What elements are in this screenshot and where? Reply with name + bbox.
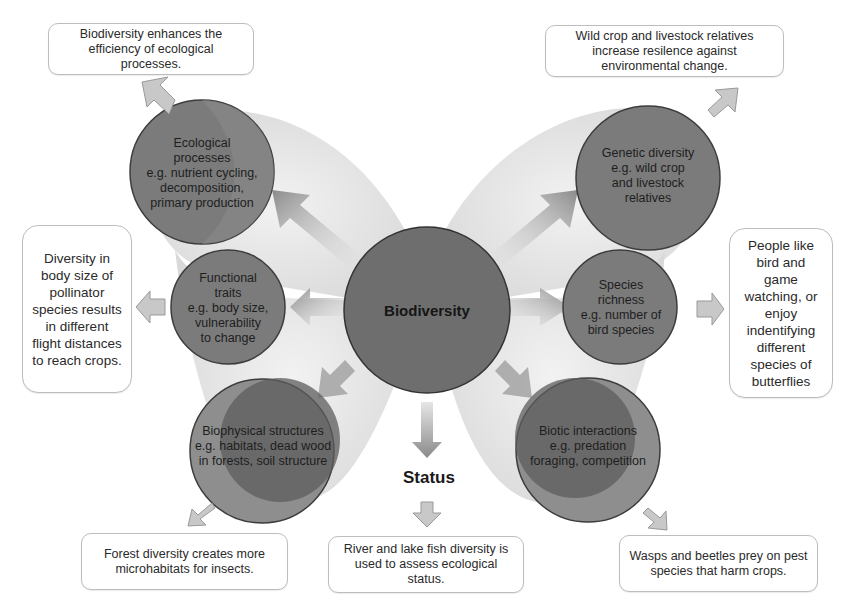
component-example: e.g. wild crop (602, 161, 694, 176)
component-title: Species (581, 278, 662, 293)
example-text: People like bird and game watching, or e… (738, 237, 824, 390)
component-example: bird species (581, 323, 662, 338)
component-example: relatives (602, 191, 694, 206)
component-title: Genetic diversity (602, 146, 694, 161)
component-example: in forests, soil structure (195, 454, 331, 469)
example-box-biophysical-structures: Forest diversity creates more microhabit… (81, 533, 288, 590)
example-box-genetic-diversity: Wild crop and livestock relatives increa… (545, 25, 784, 77)
example-box-species-richness: People like bird and game watching, or e… (729, 228, 833, 398)
example-text: Diversity in body size of pollinator spe… (31, 250, 123, 369)
component-example: and livestock (602, 176, 694, 191)
component-title: Ecological (146, 136, 257, 151)
component-example: primary production (146, 196, 257, 211)
center-label: Biodiversity (344, 296, 510, 324)
component-title: richness (581, 293, 662, 308)
arrow-to-functional-example (136, 291, 165, 323)
component-example: vulnerability (188, 316, 269, 331)
example-text: Biodiversity enhances the efficiency of … (57, 27, 245, 72)
example-box-ecological-processes: Biodiversity enhances the efficiency of … (48, 23, 254, 75)
component-example: e.g. nutrient cycling, (146, 166, 257, 181)
component-example: e.g. habitats, dead wood (195, 439, 331, 454)
label-species-richness: Species richness e.g. number of bird spe… (566, 272, 676, 344)
arrow-to-status (412, 402, 442, 458)
example-box-biotic-interactions: Wasps and beetles prey on pest species t… (619, 535, 818, 592)
arrow-to-species-example (697, 293, 724, 325)
example-text: River and lake fish diversity is used to… (337, 542, 515, 587)
example-box-functional-traits: Diversity in body size of pollinator spe… (22, 225, 132, 393)
label-ecological-processes: Ecological processes e.g. nutrient cycli… (135, 128, 269, 218)
label-functional-traits: Functional traits e.g. body size, vulner… (172, 265, 284, 351)
component-example: e.g. predation (530, 439, 646, 454)
component-title: traits (188, 286, 269, 301)
component-example: to change (188, 331, 269, 346)
component-example: e.g. number of (581, 308, 662, 323)
example-text: Forest diversity creates more microhabit… (90, 547, 279, 577)
example-text: Wasps and beetles prey on pest species t… (628, 549, 809, 579)
component-title: Functional (188, 271, 269, 286)
arrow-to-biotic-example (643, 508, 667, 530)
arrow-to-genetic-example (708, 88, 738, 117)
component-example: decomposition, (146, 181, 257, 196)
component-title: processes (146, 151, 257, 166)
biodiversity-diagram: Ecological processes e.g. nutrient cycli… (0, 0, 847, 608)
example-text: Wild crop and livestock relatives increa… (554, 29, 775, 74)
arrow-to-status-example (413, 502, 441, 527)
component-title: Biotic interactions (530, 424, 646, 439)
status-label: Status (403, 468, 455, 488)
component-example: foraging, competition (530, 454, 646, 469)
arrow-to-ecological-example (142, 77, 175, 114)
component-title: Biophysical structures (195, 424, 331, 439)
label-genetic-diversity: Genetic diversity e.g. wild crop and liv… (585, 140, 711, 212)
example-box-status: River and lake fish diversity is used to… (328, 536, 524, 593)
label-biophysical-structures: Biophysical structures e.g. habitats, de… (192, 418, 334, 474)
arrow-to-biophysical-example (188, 503, 215, 526)
label-biotic-interactions: Biotic interactions e.g. predation forag… (518, 418, 658, 474)
component-example: e.g. body size, (188, 301, 269, 316)
